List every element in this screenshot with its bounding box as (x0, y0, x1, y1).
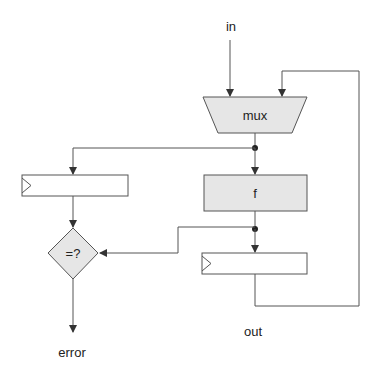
comparator-block: =? (48, 228, 98, 279)
input-label: in (226, 19, 236, 34)
right-register (202, 253, 307, 274)
function-label: f (253, 186, 257, 201)
comparator-label: =? (66, 246, 81, 261)
error-label: error (58, 345, 86, 360)
branch-to-comparator-wire (100, 227, 255, 253)
output-label: out (244, 324, 262, 339)
function-block: f (204, 175, 307, 211)
diagram-canvas: in mux f =? error o (0, 0, 377, 377)
mux-label: mux (243, 108, 268, 123)
left-register (22, 175, 128, 196)
branch-to-left-register-wire (73, 148, 255, 174)
mux-block: mux (203, 97, 307, 133)
